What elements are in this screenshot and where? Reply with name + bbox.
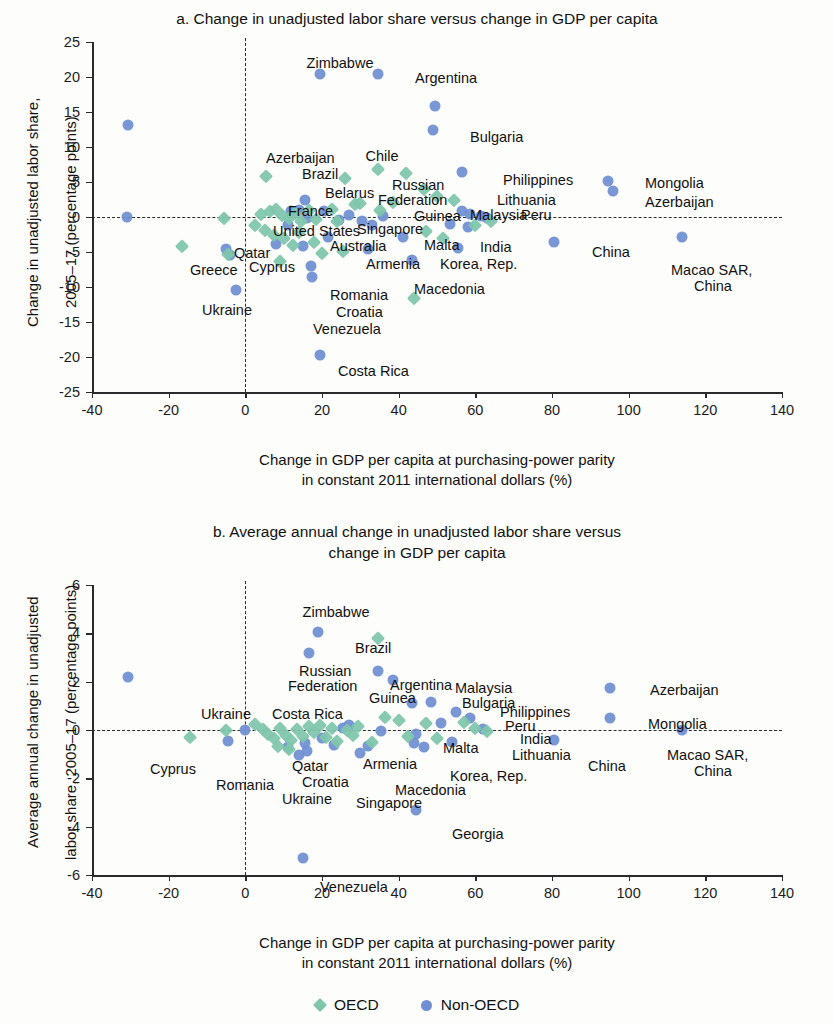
panel-a-y-tick-label: -10 [34,279,80,295]
panel-a-y-tick-label: -5 [34,244,80,260]
country-annotation-label: Peru [521,207,552,224]
panel-b-x-tick-label: 100 [617,885,641,901]
panel-b-y-tick-label: 0 [34,722,80,738]
panel-a-y-tick [86,112,92,113]
panel-b-x-tick-label: 60 [467,885,483,901]
data-point [122,212,133,223]
data-point [376,726,387,737]
data-point [123,119,134,130]
country-annotation-label: Federation [378,192,447,209]
panel-a-y-tick-label: -15 [34,314,80,330]
country-annotation-label: China [694,278,732,295]
panel-a-x-tick-label: 120 [693,402,717,418]
panel-a-y-tick-label: 0 [34,209,80,225]
panel-a-x-tick [705,392,706,398]
country-annotation-label: Georgia [452,826,504,843]
panel-a-x-tick [629,392,630,398]
panel-a-y-tick [86,357,92,358]
country-annotation-label: Cyprus [249,259,295,276]
panel-b-x-tick-label: 120 [693,885,717,901]
panel-a-x-tick-label: -40 [82,402,103,418]
panel-b-x-axis-title-line1: Change in GDP per capita at purchasing-p… [92,933,782,953]
panel-b-y-tick [86,682,92,683]
panel-b-y-tick [86,633,92,634]
panel-b-x-axis-title: Change in GDP per capita at purchasing-p… [92,933,782,973]
data-point [240,725,251,736]
country-annotation-label: China [592,244,630,261]
country-annotation-label: Bulgaria [470,129,523,146]
panel-a-x-tick-label: 40 [391,402,407,418]
data-point [315,246,328,259]
panel-b-y-tick [86,827,92,828]
data-point [608,186,619,197]
panel-a-x-tick [782,392,783,398]
data-point [419,716,432,729]
panel-a-x-tick-label: 140 [770,402,794,418]
data-point [430,732,443,745]
country-annotation-label: Belarus [325,185,374,202]
country-annotation-label: Armenia [366,256,420,273]
panel-a-y-tick [86,392,92,393]
legend-item-oecd: OECD [315,996,379,1014]
country-annotation-label: Mongolia [648,716,707,733]
country-annotation-label: Qatar [292,758,328,775]
panel-b-x-axis-title-line2: in constant 2011 international dollars (… [92,953,782,973]
country-annotation-label: Philippines [503,172,573,189]
data-point [548,236,559,247]
panel-a-x-tick [552,392,553,398]
panel-a-x-axis-title-line2: in constant 2011 international dollars (… [92,470,782,490]
country-annotation-label: France [288,203,333,220]
country-annotation-label: Azerbaijan [645,194,714,211]
country-annotation-label: Costa Rica [272,706,343,723]
panel-a-x-tick-label: 20 [314,402,330,418]
panel-b-y-tick-label: 4 [34,625,80,641]
country-annotation-label: Singapore [357,221,423,238]
panel-b-y-tick-label: 6 [34,577,80,593]
panel-b-y-tick [86,585,92,586]
panel-a-x-tick [399,392,400,398]
oecd-diamond-icon [313,998,327,1012]
panel-b-x-tick [475,875,476,881]
data-point [303,647,314,658]
country-annotation-label: Ukraine [202,302,252,319]
country-annotation-label: Croatia [302,774,349,791]
panel-a-y-tick [86,147,92,148]
panel-a-x-tick [92,392,93,398]
data-point [372,69,383,80]
panel-a-y-tick-label: 5 [34,174,80,190]
data-point [426,697,437,708]
country-annotation-label: Federation [288,678,357,695]
country-annotation-label: Zimbabwe [303,604,370,621]
panel-a-y-tick-label: 20 [34,69,80,85]
data-point [451,706,462,717]
panel-b-y-tick-label: -6 [34,867,80,883]
legend-label-non-oecd: Non-OECD [441,996,519,1014]
country-annotation-label: Cyprus [150,761,196,778]
data-point [183,731,196,744]
data-point [230,284,241,295]
panel-b-x-tick [399,875,400,881]
panel-a-x-tick-label: 60 [467,402,483,418]
data-point [430,101,441,112]
panel-a-x-tick-label: 0 [241,402,249,418]
country-annotation-label: Zimbabwe [307,55,374,72]
panel-a-y-tick [86,182,92,183]
country-annotation-label: Macao SAR, [667,747,748,764]
panel-a-x-axis-title-line1: Change in GDP per capita at purchasing-p… [92,450,782,470]
panel-a-y-tick-label: 15 [34,104,80,120]
panel-a-x-tick [475,392,476,398]
legend-label-oecd: OECD [334,996,379,1014]
panel-b-x-tick [169,875,170,881]
country-annotation-label: China [588,758,626,775]
country-annotation-label: Ukraine [282,791,332,808]
country-annotation-label: Argentina [415,70,477,87]
country-annotation-label: Lithuania [512,747,571,764]
country-annotation-label: Brazil [302,166,338,183]
country-annotation-label: Malta [424,237,459,254]
panel-a-x-tick-label: 100 [617,402,641,418]
panel-b-x-tick [705,875,706,881]
country-annotation-label: Azerbaijan [266,150,335,167]
country-annotation-label: Azerbaijan [650,682,719,699]
data-point [379,710,392,723]
panel-a-y-tick [86,42,92,43]
